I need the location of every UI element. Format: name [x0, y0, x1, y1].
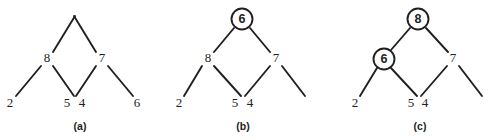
tree-edge	[108, 66, 133, 96]
tree-node-label: 8	[415, 12, 422, 26]
tree-node-label: 5	[232, 95, 239, 110]
tree-edge	[360, 68, 377, 96]
tree-edge	[426, 28, 448, 52]
tree-edge	[184, 66, 202, 96]
tree-node-label: 8	[205, 50, 212, 65]
tree-node-label: 2	[7, 95, 14, 110]
panel-caption-a: (a)	[74, 120, 87, 132]
tree-node-label: 6	[239, 12, 246, 26]
panel-captions-group: (a)(b)(c)	[74, 120, 427, 132]
tree-node-label: 7	[99, 50, 106, 65]
tree-edge	[391, 28, 410, 50]
tree-edge	[74, 16, 96, 52]
tree-edge	[16, 66, 41, 96]
tree-edge	[214, 66, 241, 96]
tree-node-label: 5	[408, 95, 415, 110]
panel-caption-b: (b)	[236, 120, 249, 132]
tree-edge	[76, 66, 96, 96]
panel-caption-c: (c)	[414, 120, 427, 132]
tree-edge	[250, 28, 270, 52]
tree-edge	[459, 66, 482, 96]
tree-edge	[53, 16, 75, 52]
tree-edge	[421, 66, 447, 96]
tree-node-label: 7	[273, 50, 280, 65]
figure-container: 872546687254867254 (a)(b)(c)	[0, 0, 496, 140]
tree-node-label: 4	[247, 95, 254, 110]
tree-node-label: 7	[450, 50, 457, 65]
tree-node-label: 6	[134, 95, 141, 110]
tree-node-label: 4	[422, 95, 429, 110]
tree-node-label: 4	[79, 95, 86, 110]
tree-edge	[391, 68, 417, 96]
tree-edge	[245, 66, 270, 96]
tree-node-label: 2	[352, 95, 359, 110]
tree-edge	[214, 28, 234, 52]
binary-tree-diagram: 872546687254867254 (a)(b)(c)	[0, 0, 496, 140]
tree-edge	[282, 66, 305, 96]
tree-node-label: 6	[381, 52, 388, 66]
tree-node-label: 8	[44, 50, 51, 65]
tree-edge	[53, 66, 74, 96]
tree-node-label: 5	[64, 95, 71, 110]
tree-node-label: 2	[176, 95, 183, 110]
